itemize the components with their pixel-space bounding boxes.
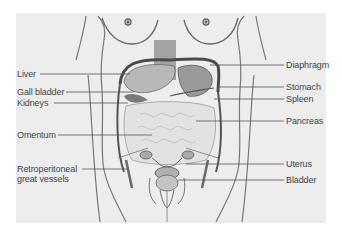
label-spleen: Spleen (286, 94, 313, 104)
label-retroperitoneal-line2: great vessels (17, 174, 77, 184)
label-retroperitoneal-great-vessels: Retroperitoneal great vessels (17, 164, 77, 184)
label-pancreas: Pancreas (286, 116, 323, 126)
omentum-shape (124, 102, 216, 165)
label-kidneys: Kidneys (17, 98, 48, 108)
liver-shape (124, 65, 175, 93)
label-uterus: Uterus (286, 159, 312, 169)
label-omentum: Omentum (17, 130, 56, 140)
stomach-shape (178, 65, 212, 96)
label-liver: Liver (17, 69, 36, 79)
label-diaphragm: Diaphragm (286, 60, 329, 70)
label-stomach: Stomach (286, 82, 321, 92)
label-bladder: Bladder (286, 175, 316, 185)
kidney-shape (124, 94, 148, 103)
label-gall-bladder: Gall bladder (17, 87, 64, 97)
label-retroperitoneal-line1: Retroperitoneal (17, 164, 77, 174)
